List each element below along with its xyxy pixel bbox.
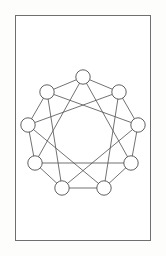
graph-edge-chord-2 bbox=[68, 130, 133, 184]
graph-edge-ring-7 bbox=[32, 98, 44, 119]
graph-edge-chord-1 bbox=[105, 99, 118, 181]
graph-edge-ring-1 bbox=[123, 98, 135, 119]
graph-node-1 bbox=[112, 85, 126, 99]
graph-edge-chord-4 bbox=[34, 130, 99, 184]
graph-edge-ring-6 bbox=[29, 132, 33, 156]
graph-edge-chord-5 bbox=[48, 99, 61, 181]
graph-node-5 bbox=[55, 181, 69, 195]
figure-card: Enneagram circulant graph diagram bbox=[0, 0, 166, 256]
graph-node-3 bbox=[124, 156, 138, 170]
graph-edge-ring-0 bbox=[90, 80, 113, 89]
graph-canvas bbox=[0, 0, 166, 256]
graph-edge-ring-5 bbox=[40, 168, 56, 183]
graph-node-4 bbox=[97, 181, 111, 195]
graph-node-7 bbox=[21, 118, 35, 132]
node-layer bbox=[21, 70, 145, 195]
graph-node-6 bbox=[28, 156, 42, 170]
graph-edge-ring-3 bbox=[109, 168, 125, 183]
graph-node-2 bbox=[131, 118, 145, 132]
graph-edge-ring-8 bbox=[54, 80, 77, 89]
graph-edge-ring-2 bbox=[132, 132, 136, 156]
graph-node-0 bbox=[76, 70, 90, 84]
graph-node-8 bbox=[40, 85, 54, 99]
